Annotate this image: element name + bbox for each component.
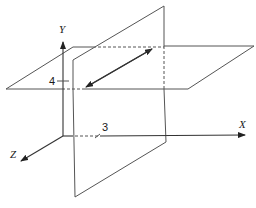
z-axis-label: Z xyxy=(10,148,17,160)
y-axis: Y 4 xyxy=(49,23,69,136)
z-axis: Z xyxy=(10,136,63,161)
x-tick-label: 3 xyxy=(102,121,108,133)
diagram-canvas: Y 4 X 3 Z xyxy=(0,0,256,208)
y-axis-label: Y xyxy=(59,23,67,35)
x-axis: X 3 xyxy=(63,118,247,138)
x-axis-label: X xyxy=(238,118,247,130)
y-tick-label: 4 xyxy=(49,75,55,87)
vertical-plane xyxy=(73,6,166,197)
horizontal-plane xyxy=(6,46,254,89)
intersection-arrow xyxy=(86,49,152,87)
